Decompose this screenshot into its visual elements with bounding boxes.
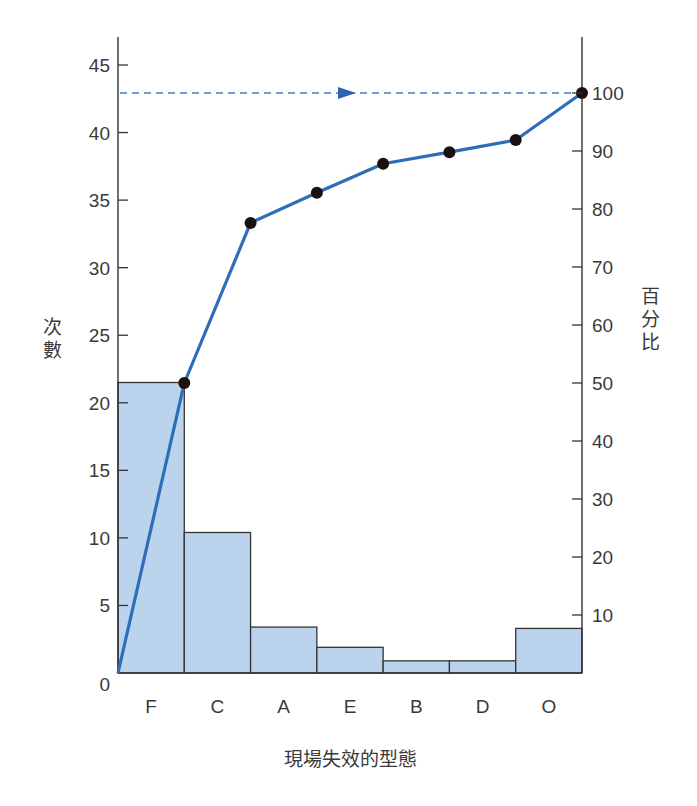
bar-A (251, 627, 317, 673)
y-left-tick-label: 30 (89, 258, 110, 279)
bar-D (449, 661, 515, 673)
y-right-title-char: 百 (638, 285, 662, 308)
bar-series (118, 383, 582, 673)
y-right-axis-title: 百 分 比 (638, 285, 662, 354)
x-category-labels: FCAEBDO (145, 696, 556, 717)
y-left-axis-title: 次 數 (40, 316, 64, 362)
y-left-title-char: 次 (40, 316, 64, 339)
bar-E (317, 647, 383, 673)
y-right-tick-label: 80 (592, 199, 613, 220)
x-category-label: A (277, 696, 290, 717)
x-category-label: F (145, 696, 157, 717)
x-category-label: C (211, 696, 225, 717)
marker-B (443, 146, 455, 158)
y-left-tick-label: 35 (89, 190, 110, 211)
y-right-tick-label: 50 (592, 373, 613, 394)
y-right-tick-label: 60 (592, 315, 613, 336)
y-left-tick-label: 45 (89, 55, 110, 76)
chart-canvas: 051015202530354045 102030405060708090100… (0, 0, 697, 806)
y-left-tick-label: 20 (89, 393, 110, 414)
y-right-tick-label: 90 (592, 141, 613, 162)
y-left-tick-label: 15 (89, 460, 110, 481)
marker-A (311, 187, 323, 199)
y-right-title-char: 比 (638, 331, 662, 354)
marker-F (178, 377, 190, 389)
y-left-tick-label: 40 (89, 123, 110, 144)
y-right-tick-label: 20 (592, 547, 613, 568)
x-axis-title: 現場失效的型態 (200, 748, 500, 771)
x-category-label: B (410, 696, 423, 717)
y-right-title-char: 分 (638, 308, 662, 331)
y-left-title-char: 數 (40, 339, 64, 362)
bar-O (516, 628, 582, 673)
y-right-ticks: 102030405060708090100 (572, 83, 624, 626)
bar-B (383, 661, 449, 673)
arrow-right-icon (338, 87, 356, 99)
y-right-tick-label: 100 (592, 83, 624, 104)
x-category-label: E (344, 696, 357, 717)
y-left-tick-label: 10 (89, 528, 110, 549)
y-right-tick-label: 30 (592, 489, 613, 510)
pareto-chart: 051015202530354045 102030405060708090100… (0, 0, 697, 806)
y-right-tick-label: 10 (592, 605, 613, 626)
bar-C (184, 532, 250, 673)
y-left-tick-label: 5 (99, 595, 110, 616)
reference-line-100 (120, 87, 582, 99)
marker-D (510, 134, 522, 146)
y-right-tick-label: 40 (592, 431, 613, 452)
marker-C (245, 217, 257, 229)
marker-E (377, 158, 389, 170)
y-left-tick-label: 25 (89, 325, 110, 346)
y-right-tick-label: 70 (592, 257, 613, 278)
y-left-tick-label: 0 (99, 674, 110, 695)
x-category-label: O (541, 696, 556, 717)
x-category-label: D (476, 696, 490, 717)
